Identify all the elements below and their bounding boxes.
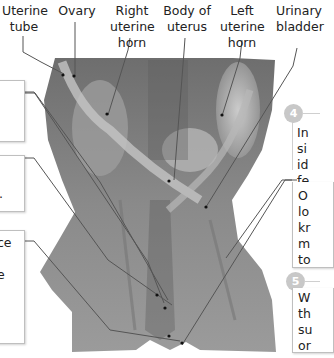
label-urinary-bladder: Urinary bladder xyxy=(276,3,322,35)
label-line: Left xyxy=(220,3,264,19)
step-number: 5 xyxy=(292,275,300,288)
label-line: Uterine xyxy=(2,3,46,19)
step-5-box: W th su or xyxy=(292,288,334,353)
step-5-divider xyxy=(304,281,320,282)
step-text-box: O lo kr m to xyxy=(292,182,334,268)
step-line: si xyxy=(297,141,309,157)
label-right-uterine-horn: Right uterine horn xyxy=(110,3,154,51)
label-line: bladder xyxy=(276,19,322,35)
label-line: Right xyxy=(110,3,154,19)
left-box-2: . xyxy=(0,155,25,212)
label-line: tube xyxy=(2,19,46,35)
left-box-1 xyxy=(0,80,25,142)
label-line: horn xyxy=(110,35,154,51)
step-number: 4 xyxy=(290,107,298,120)
label-line: Ovary xyxy=(58,3,96,19)
step-line: or xyxy=(298,338,312,353)
step-badge-4: 4 xyxy=(284,104,303,123)
step-line: su xyxy=(298,322,312,338)
step-line: O xyxy=(298,188,311,204)
step-4-text: In si id fe xyxy=(297,125,309,189)
label-line: Body of xyxy=(162,3,212,19)
left-box-text: . xyxy=(0,186,3,201)
left-box-3: ce e xyxy=(0,230,25,344)
label-left-uterine-horn: Left uterine horn xyxy=(220,3,264,51)
label-line: uterine xyxy=(220,19,264,35)
left-box-text: e xyxy=(0,267,5,282)
label-ovary: Ovary xyxy=(58,3,96,19)
step-line: m xyxy=(298,236,311,252)
label-line: uterus xyxy=(162,19,212,35)
step-line: kr xyxy=(298,220,311,236)
step-line: to xyxy=(298,252,311,268)
left-box-text: ce xyxy=(0,235,12,250)
label-line: Urinary xyxy=(276,3,322,19)
step-line: id xyxy=(297,157,309,173)
label-line: horn xyxy=(220,35,264,51)
step-line: In xyxy=(297,125,309,141)
step-4-divider xyxy=(302,113,320,114)
label-uterine-tube: Uterine tube xyxy=(2,3,46,35)
step-line: lo xyxy=(298,204,311,220)
step-line: W xyxy=(298,290,312,306)
label-body-of-uterus: Body of uterus xyxy=(162,3,212,35)
label-line: uterine xyxy=(110,19,154,35)
step-line: th xyxy=(298,306,312,322)
